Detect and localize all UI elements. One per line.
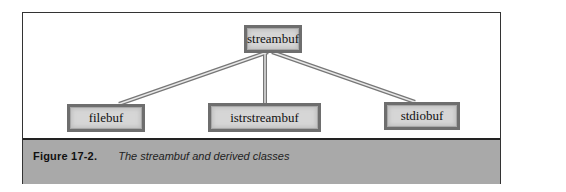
figure-caption-text: The streambuf and derived classes	[118, 150, 289, 162]
figure-number: Figure 17-2.	[33, 150, 97, 162]
class-hierarchy-diagram: streambuf filebuf istrstreambuf stdiobuf	[23, 13, 500, 138]
node-label: streambuf	[247, 31, 299, 47]
node-filebuf: filebuf	[67, 104, 145, 132]
figure-frame: streambuf filebuf istrstreambuf stdiobuf…	[22, 12, 501, 184]
node-istrstreambuf: istrstreambuf	[208, 103, 321, 132]
node-label: stdiobuf	[401, 108, 444, 124]
node-label: istrstreambuf	[230, 110, 299, 126]
node-stdiobuf: stdiobuf	[384, 102, 460, 130]
caption-band: Figure 17-2. The streambuf and derived c…	[23, 138, 500, 184]
figure-caption: Figure 17-2. The streambuf and derived c…	[33, 150, 289, 162]
node-label: filebuf	[89, 110, 124, 126]
node-streambuf: streambuf	[244, 25, 302, 53]
